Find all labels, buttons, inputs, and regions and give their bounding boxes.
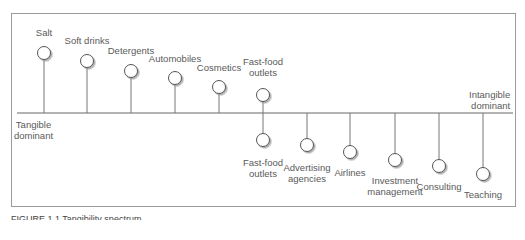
marker-circle bbox=[389, 154, 402, 167]
marker-circle bbox=[257, 134, 270, 147]
marker-circle bbox=[344, 146, 357, 159]
marker-circle bbox=[38, 47, 51, 60]
label-salt: Salt bbox=[36, 27, 52, 38]
label-teaching: Teaching bbox=[464, 189, 502, 200]
marker-circle bbox=[301, 139, 314, 152]
marker-circle bbox=[477, 168, 490, 181]
marker-circle bbox=[213, 81, 226, 94]
label-soft-drinks: Soft drinks bbox=[65, 35, 110, 46]
label-cosmetics: Cosmetics bbox=[197, 62, 241, 73]
marker-circle bbox=[81, 55, 94, 68]
figure-caption: FIGURE 1.1 Tangibility spectrum bbox=[11, 214, 141, 220]
marker-circle bbox=[125, 65, 138, 78]
marker-circle bbox=[169, 72, 182, 85]
label-airlines: Airlines bbox=[334, 167, 365, 178]
label-fast-food-outlets-above: Fast-food outlets bbox=[243, 56, 283, 78]
label-consulting: Consulting bbox=[417, 181, 462, 192]
label-detergents: Detergents bbox=[108, 45, 154, 56]
label-fast-food-outlets-below: Fast-food outlets bbox=[243, 157, 283, 179]
label-intangible-dominant: Intangible dominant bbox=[469, 89, 510, 111]
label-advertising-agencies: Advertising agencies bbox=[284, 162, 331, 184]
label-investment-management: Investment management bbox=[367, 175, 422, 197]
marker-circle bbox=[433, 160, 446, 173]
marker-circle bbox=[257, 89, 270, 102]
label-automobiles: Automobiles bbox=[149, 53, 201, 64]
label-tangible-dominant: Tangible dominant bbox=[14, 119, 53, 141]
